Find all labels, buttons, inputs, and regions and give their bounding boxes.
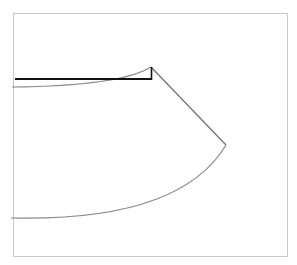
frame-border <box>14 14 288 257</box>
diagram-canvas <box>0 0 297 265</box>
